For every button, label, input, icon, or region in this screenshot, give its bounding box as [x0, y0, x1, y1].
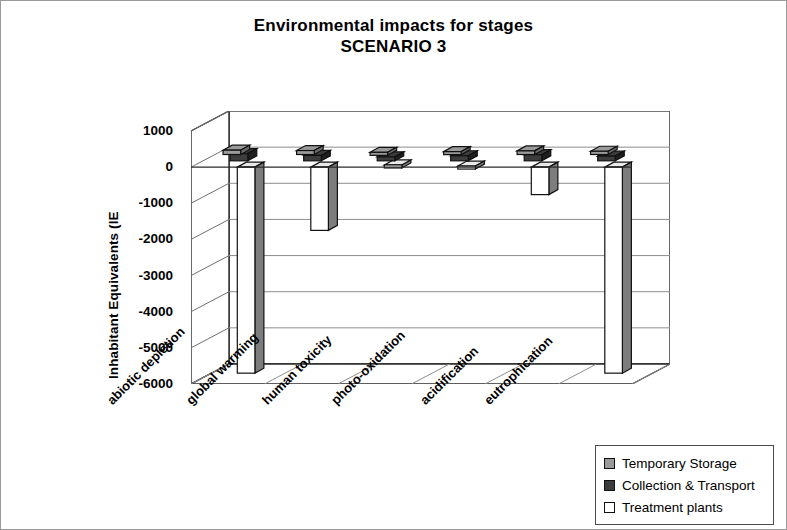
legend-item: Collection & Transport	[604, 474, 766, 496]
y-tick-label: -4000	[115, 305, 173, 318]
legend-swatch-icon	[604, 458, 615, 469]
y-tick-label: -2000	[115, 232, 173, 245]
chart-title: Environmental impacts for stages SCENARI…	[1, 15, 786, 57]
legend-swatch-icon	[604, 480, 615, 491]
chart-title-line2: SCENARIO 3	[1, 36, 786, 57]
legend-item: Treatment plants	[604, 496, 766, 518]
y-tick-label: 0	[115, 160, 173, 173]
y-tick-label: 1000	[115, 124, 173, 137]
legend-swatch-icon	[604, 502, 615, 513]
plot-area	[191, 111, 670, 384]
chart-page: Environmental impacts for stages SCENARI…	[0, 0, 787, 530]
legend-label: Treatment plants	[622, 500, 723, 515]
legend-label: Collection & Transport	[622, 478, 755, 493]
y-axis-title: Inhabitant Equivalents (IE	[0, 0, 11, 121]
chart-legend: Temporary StorageCollection & TransportT…	[595, 445, 774, 525]
legend-item: Temporary Storage	[604, 452, 766, 474]
legend-label: Temporary Storage	[622, 456, 737, 471]
y-tick-label: -1000	[115, 196, 173, 209]
chart-canvas	[191, 111, 670, 384]
chart-title-line1: Environmental impacts for stages	[1, 15, 786, 36]
y-tick-label: -3000	[115, 269, 173, 282]
